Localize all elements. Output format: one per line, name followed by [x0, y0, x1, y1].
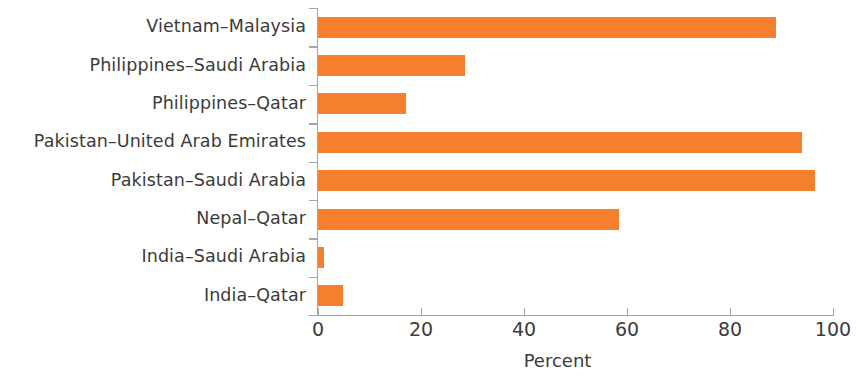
x-axis-tick-label: 80: [718, 320, 742, 339]
y-axis-tick-label: Nepal–Qatar: [0, 210, 306, 228]
bar-nepal-qatar: [318, 209, 619, 230]
y-axis-tick: [309, 315, 317, 316]
y-axis-tick: [309, 46, 317, 47]
x-axis-tick-label: 40: [512, 320, 536, 339]
x-axis-tick-label: 20: [409, 320, 433, 339]
horizontal-bar-chart: Vietnam–Malaysia Philippines–Saudi Arabi…: [0, 0, 858, 383]
y-axis-tick: [309, 200, 317, 201]
bar-pakistan-united-arab-emirates: [318, 132, 802, 153]
x-axis-line: [317, 315, 834, 316]
bar-philippines-qatar: [318, 93, 406, 114]
bar-pakistan-saudi-arabia: [318, 170, 815, 191]
bar-philippines-saudi-arabia: [318, 55, 465, 76]
y-axis-category-labels: Vietnam–Malaysia Philippines–Saudi Arabi…: [0, 8, 306, 315]
y-axis-tick-label: India–Saudi Arabia: [0, 248, 306, 266]
bar-india-saudi-arabia: [318, 247, 324, 268]
x-axis-tick: [318, 308, 319, 316]
x-axis-tick: [730, 308, 731, 316]
y-axis-line: [317, 8, 318, 316]
y-axis-tick-label: Pakistan–Saudi Arabia: [0, 172, 306, 190]
y-axis-tick: [309, 8, 317, 9]
bar-india-qatar: [318, 285, 343, 306]
y-axis-tick-label: Vietnam–Malaysia: [0, 18, 306, 36]
x-axis-tick-label: 0: [312, 320, 324, 339]
y-axis-tick: [309, 123, 317, 124]
y-axis-tick: [309, 277, 317, 278]
bar-vietnam-malaysia: [318, 17, 776, 38]
x-axis-tick-label: 100: [815, 320, 851, 339]
x-axis-title-text: Percent: [524, 350, 592, 371]
plot-area: [318, 8, 833, 315]
x-axis-tick: [833, 308, 834, 316]
y-axis-tick-label: Philippines–Saudi Arabia: [0, 57, 306, 75]
x-axis-tick: [524, 308, 525, 316]
x-axis-tick: [627, 308, 628, 316]
y-axis-tick: [309, 162, 317, 163]
x-axis-title: Percent: [0, 352, 858, 370]
y-axis-tick-label: Pakistan–United Arab Emirates: [0, 133, 306, 151]
y-axis-tick: [309, 85, 317, 86]
x-axis-tick: [421, 308, 422, 316]
y-axis-tick-label: Philippines–Qatar: [0, 95, 306, 113]
y-axis-tick-label: India–Qatar: [0, 287, 306, 305]
y-axis-tick: [309, 238, 317, 239]
x-axis-tick-label: 60: [615, 320, 639, 339]
